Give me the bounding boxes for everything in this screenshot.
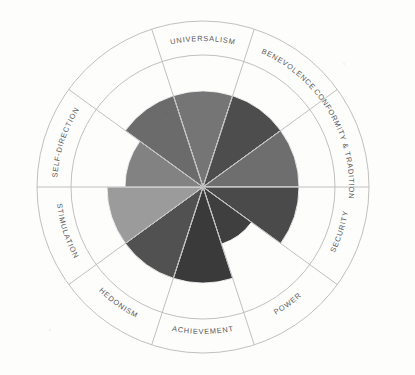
segment-label-universalism: UNIVERSALISM bbox=[169, 34, 236, 47]
segment-label-benevolence: BENEVOLENCE bbox=[260, 47, 318, 92]
values-circumplex-figure: UNIVERSALISMBENEVOLENCECONFORMITY & TRAD… bbox=[0, 0, 415, 375]
segment-label-conformity-tradition: CONFORMITY & TRADITION bbox=[312, 87, 356, 199]
circumplex-svg: UNIVERSALISMBENEVOLENCECONFORMITY & TRAD… bbox=[0, 0, 415, 375]
segment-label-power: POWER bbox=[272, 290, 303, 316]
segment-label-hedonism: HEDONISM bbox=[97, 286, 139, 320]
ring-lines-layer bbox=[37, 21, 369, 353]
segment-label-self-direction: SELF-DIRECTION bbox=[50, 105, 81, 178]
segment-label-achievement: ACHIEVEMENT bbox=[171, 324, 234, 336]
segment-label-stimulation: STIMULATION bbox=[55, 203, 81, 260]
